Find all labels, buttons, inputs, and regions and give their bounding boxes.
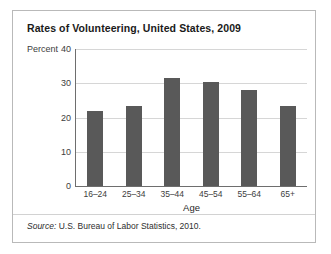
source-text: U.S. Bureau of Labor Statistics, 2010. <box>59 221 201 231</box>
x-axis-tick-labels: 16–2425–3435–4445–5455–6465+ <box>76 189 307 199</box>
plot-area: 010203040 16–2425–3435–4445–5455–6465+ A… <box>75 49 307 186</box>
x-axis-tick-label: 35–44 <box>153 189 191 199</box>
y-axis-tick-label: 40 <box>61 44 71 54</box>
x-axis-tick-label: 55–64 <box>230 189 268 199</box>
bar <box>164 78 180 186</box>
bar-slot <box>192 49 230 186</box>
y-axis-tick-label: 10 <box>61 147 71 157</box>
x-axis-tick-label: 25–34 <box>115 189 153 199</box>
bar-slot <box>115 49 153 186</box>
y-axis-label: Percent <box>27 44 58 54</box>
note-divider <box>13 214 315 215</box>
x-axis-tick-label: 45–54 <box>192 189 230 199</box>
bar-slot <box>230 49 268 186</box>
x-axis-label: Age <box>76 202 307 213</box>
source-note: Source: U.S. Bureau of Labor Statistics,… <box>27 221 201 231</box>
bar <box>203 82 219 186</box>
chart-title: Rates of Volunteering, United States, 20… <box>27 22 241 34</box>
source-label: Source: <box>27 221 56 231</box>
y-axis-tick-label: 30 <box>61 78 71 88</box>
bar <box>280 106 296 186</box>
bar <box>241 90 257 186</box>
x-axis-tick-label: 16–24 <box>76 189 114 199</box>
bar-slot <box>76 49 114 186</box>
x-axis-line <box>75 186 307 187</box>
bar <box>87 111 103 186</box>
bar <box>126 106 142 186</box>
y-axis-tick-label: 0 <box>66 181 71 191</box>
y-axis-tick-label: 20 <box>61 113 71 123</box>
bar-slot <box>269 49 307 186</box>
bar-series <box>76 49 307 186</box>
x-axis-tick-label: 65+ <box>269 189 307 199</box>
figure-panel: Rates of Volunteering, United States, 20… <box>12 10 316 243</box>
bar-slot <box>153 49 191 186</box>
